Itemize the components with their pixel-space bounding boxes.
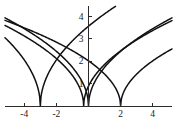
x-tick-label: -4 <box>20 109 28 119</box>
plot-canvas: -4-224 1234 <box>0 0 175 128</box>
y-tick-label: 4 <box>79 12 84 22</box>
x-tick-label: 4 <box>150 109 155 119</box>
x-tick-label: -2 <box>52 109 60 119</box>
y-tick-label: 2 <box>79 56 84 66</box>
y-tick-label: 3 <box>79 34 84 44</box>
x-tick-label: 2 <box>118 109 123 119</box>
chart-screenshot: -4-224 1234 <box>0 0 175 128</box>
y-tick-label: 1 <box>79 79 84 89</box>
